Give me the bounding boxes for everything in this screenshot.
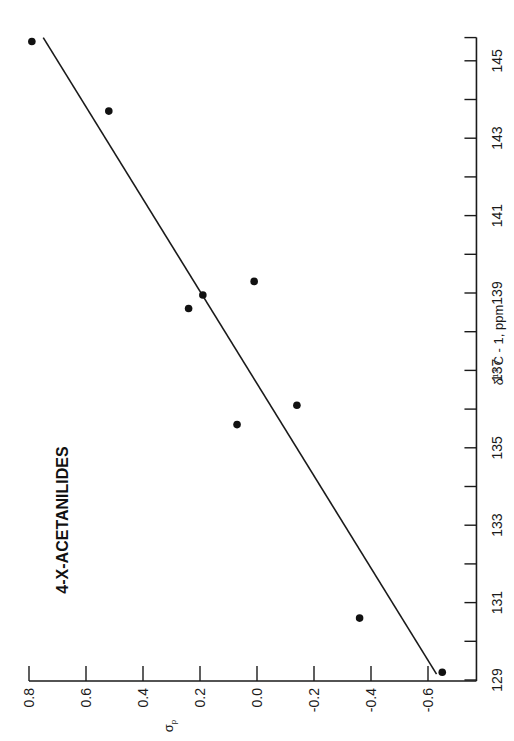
- regression-line: [43, 38, 436, 675]
- x-axis-label-rest: C - 1, ppm: [491, 305, 506, 369]
- y-tick-label: 0.6: [78, 688, 94, 708]
- x-tick-label: 133: [489, 513, 505, 537]
- y-tick-label: 0.2: [192, 688, 208, 708]
- data-point: [293, 401, 301, 409]
- y-tick-label: 0.0: [249, 688, 265, 708]
- data-point: [233, 421, 241, 429]
- data-points: [28, 38, 446, 676]
- y-tick-label: -0.4: [363, 688, 379, 712]
- data-point: [250, 278, 258, 286]
- x-axis-label-delta: δ: [491, 378, 506, 385]
- y-tick-label: -0.6: [420, 688, 436, 712]
- x-tick-label: 139: [489, 281, 505, 305]
- tick-labels: 1291311331351371391411431450.80.60.40.20…: [21, 49, 505, 712]
- y-tick-label: 0.4: [135, 688, 151, 708]
- chart: 1291311331351371391411431450.80.60.40.20…: [0, 0, 514, 741]
- ticks: [29, 38, 476, 681]
- data-point: [199, 291, 207, 299]
- x-tick-label: 141: [489, 204, 505, 228]
- y-tick-label: 0.8: [21, 688, 37, 708]
- x-tick-label: 129: [489, 668, 505, 692]
- data-point: [438, 668, 446, 676]
- data-point: [28, 38, 36, 46]
- x-tick-label: 131: [489, 591, 505, 615]
- data-point: [185, 305, 193, 313]
- y-axis-label-sigma: σ: [161, 724, 176, 732]
- axes: [29, 38, 476, 681]
- y-tick-label: -0.2: [306, 688, 322, 712]
- y-axis-label-subscript: p: [169, 719, 178, 724]
- data-point: [356, 614, 364, 622]
- x-tick-label: 135: [489, 436, 505, 460]
- y-axis-label: σp: [161, 719, 178, 732]
- x-tick-label: 145: [489, 49, 505, 73]
- data-point: [105, 107, 113, 115]
- x-tick-label: 143: [489, 126, 505, 150]
- chart-title: 4-X-ACETANILIDES: [54, 446, 71, 594]
